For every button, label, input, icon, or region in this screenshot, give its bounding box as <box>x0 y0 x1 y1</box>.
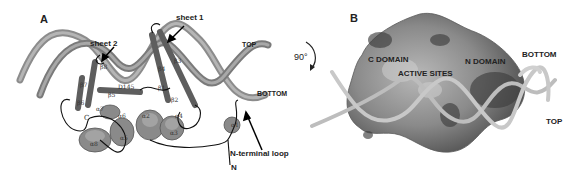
panel-label-a: A <box>40 14 48 25</box>
panel-label-b: B <box>350 13 358 24</box>
top-strand-label: TOP <box>242 41 256 48</box>
strand-label-b5: β5 <box>108 92 115 98</box>
helix-label-a7: α7 <box>96 106 104 112</box>
helix-label-a8: α8 <box>90 141 98 147</box>
n-terminus-label: N <box>231 164 237 172</box>
n-domain-label: N DOMAIN <box>465 58 505 66</box>
c-domain-label: C DOMAIN <box>368 56 408 64</box>
strand-label-b1: β1 <box>158 85 165 91</box>
panel-b-surface-rendering: B 90° C DOMAIN N DOMAIN ACTIVE SITES BOT… <box>290 0 576 180</box>
surface-structure-graphic <box>290 0 576 180</box>
strand-label-b6: β6 <box>77 100 84 106</box>
rotation-label: 90° <box>294 53 308 62</box>
helix-label-a1: α1 <box>231 122 239 128</box>
residue-d145-label: D145 <box>118 84 134 90</box>
helix-label-a6: α6 <box>118 113 126 119</box>
strand-label-b7: β7 <box>80 82 87 88</box>
bottom-strand-label: BOTTOM <box>257 90 287 97</box>
helix-label-a2: α2 <box>142 113 150 119</box>
strand-label-b2: β2 <box>171 97 178 103</box>
sheet2-label: sheet 2 <box>90 40 118 48</box>
helix-label-a4: α4 <box>175 113 183 119</box>
strand-label-b4: β4 <box>158 66 165 72</box>
strand-label-b8: β8 <box>100 64 107 70</box>
c-terminus-label: C <box>84 115 89 122</box>
panel-a-ribbon-diagram: A sheet 1 sheet 2 TOP BOTTOM N-terminal … <box>0 0 290 180</box>
helix-label-a3: α3 <box>170 130 178 136</box>
top-strand-label-b: TOP <box>546 118 562 126</box>
bottom-strand-label-b: BOTTOM <box>522 51 557 59</box>
active-sites-label: ACTIVE SITES <box>398 70 453 78</box>
sheet1-label: sheet 1 <box>176 14 204 22</box>
n-terminal-loop-label: N-terminal loop <box>230 150 289 158</box>
helix-label-a5: α5 <box>120 135 128 141</box>
strand-label-b3: β3 <box>174 58 181 64</box>
